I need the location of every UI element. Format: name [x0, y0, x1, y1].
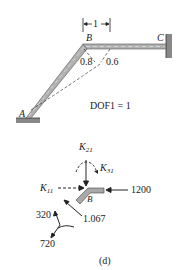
dimension-label: 1: [93, 19, 98, 29]
k31-label: K31: [100, 163, 114, 175]
node-label-c: C: [157, 33, 164, 43]
k11-arrow: [58, 186, 84, 191]
force-1200-arrow: [106, 188, 128, 193]
force-320-label: 320: [36, 210, 51, 220]
force-1200-label: 1200: [131, 185, 151, 195]
k21-arrow: [84, 160, 89, 186]
node-label-b: B: [86, 33, 92, 43]
base-reaction-arrows: [51, 211, 74, 238]
joint-label-b: B: [87, 195, 93, 204]
k31-arrowhead: [94, 170, 98, 174]
member-ab: [26, 44, 87, 118]
force-720-label: 720: [40, 239, 55, 249]
force-1067-label: 1.067: [83, 214, 106, 224]
fixed-support-c: [166, 34, 172, 58]
slope-label-right: 0.6: [106, 57, 119, 67]
node-label-a: A: [19, 109, 25, 119]
slope-label-left: 0.8: [80, 57, 93, 67]
figure-caption: (d): [99, 256, 111, 266]
dof-label: DOF1 = 1: [90, 101, 131, 111]
k11-label: K11: [40, 183, 53, 195]
k21-label: K21: [79, 142, 93, 154]
member-bc: [83, 44, 166, 49]
